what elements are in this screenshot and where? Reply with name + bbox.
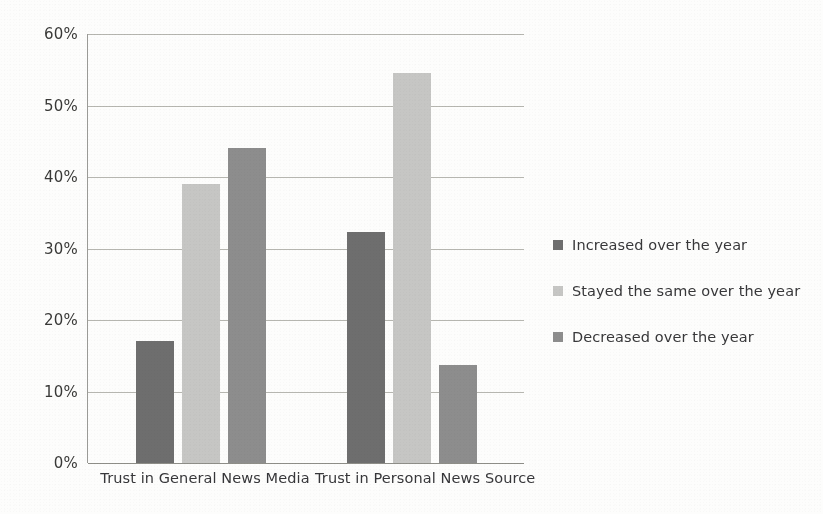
- y-tick-20: 20%: [8, 311, 78, 329]
- legend-label: Decreased over the year: [572, 329, 754, 345]
- x-label-personal-news-source: Trust in Personal News Source: [315, 470, 535, 486]
- legend: Increased over the year Stayed the same …: [553, 222, 800, 360]
- legend-swatch-icon: [553, 240, 563, 250]
- legend-swatch-icon: [553, 332, 563, 342]
- gridline-60: [88, 34, 524, 35]
- bar-group2-stayed-same: [393, 73, 431, 463]
- bar-fill: [393, 73, 431, 463]
- bar-group2-decreased: [439, 365, 477, 463]
- bar-group1-decreased: [228, 148, 266, 463]
- legend-item-increased: Increased over the year: [553, 222, 800, 268]
- bar-fill: [136, 341, 174, 463]
- bar-fill: [347, 232, 385, 463]
- x-label-general-news-media: Trust in General News Media: [95, 470, 315, 486]
- y-tick-30: 30%: [8, 240, 78, 258]
- bar-group2-increased: [347, 232, 385, 463]
- bar-group1-stayed-same: [182, 184, 220, 463]
- gridline-40: [88, 177, 524, 178]
- plot-area: [87, 34, 523, 463]
- bar-fill: [182, 184, 220, 463]
- gridline-50: [88, 106, 524, 107]
- legend-label: Stayed the same over the year: [572, 283, 800, 299]
- y-tick-50: 50%: [8, 97, 78, 115]
- legend-swatch-icon: [553, 286, 563, 296]
- bar-fill: [228, 148, 266, 463]
- legend-item-decreased: Decreased over the year: [553, 314, 800, 360]
- gridline-20: [88, 320, 524, 321]
- y-tick-60: 60%: [8, 25, 78, 43]
- bar-group1-increased: [136, 341, 174, 463]
- legend-item-stayed-same: Stayed the same over the year: [553, 268, 800, 314]
- gridline-30: [88, 249, 524, 250]
- gridline-0-baseline: [88, 463, 524, 464]
- bar-chart: 60% 50% 40% 30% 20% 10% 0%: [0, 0, 823, 514]
- bar-fill: [439, 365, 477, 463]
- y-tick-10: 10%: [8, 383, 78, 401]
- y-tick-0: 0%: [8, 454, 78, 472]
- y-axis-labels: 60% 50% 40% 30% 20% 10% 0%: [0, 34, 78, 463]
- legend-label: Increased over the year: [572, 237, 747, 253]
- y-tick-40: 40%: [8, 168, 78, 186]
